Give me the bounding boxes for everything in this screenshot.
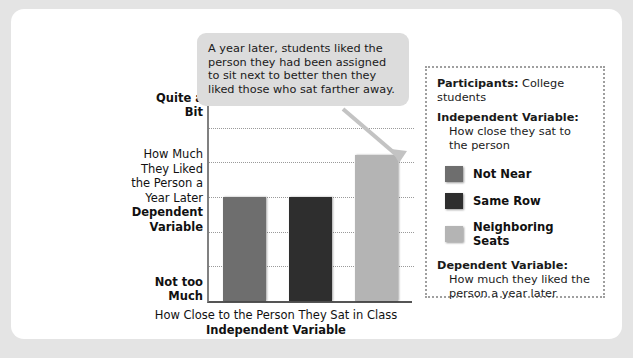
y-axis-title-line1: How Much (143, 147, 203, 161)
legend-label-same-row: Same Row (473, 194, 541, 208)
legend-item-neighboring-seats[interactable]: Neighboring Seats (445, 220, 593, 248)
x-axis-title: How Close to the Person They Sat in Clas… (131, 308, 421, 338)
dependent-variable-row: Dependent Variable: How much they liked … (437, 259, 593, 301)
dependent-variable-label: Dependent Variable: (437, 259, 593, 273)
legend-item-not-near[interactable]: Not Near (445, 166, 593, 182)
dependent-variable-value: How much they liked the person a year la… (449, 273, 593, 301)
y-axis-title-line2: They Liked (141, 162, 203, 176)
legend-swatch-same-row (445, 193, 463, 209)
info-panel: Participants: College students Independe… (425, 66, 605, 298)
legend-swatch-not-near (445, 166, 463, 182)
independent-variable-label: Independent Variable: (437, 111, 593, 125)
y-axis-title: How Much They Liked the Person a Year La… (87, 147, 203, 234)
y-axis-top-tick-label: Quite a Bit (93, 91, 203, 119)
figure-card: Quite a Bit How Much They Liked the Pers… (11, 9, 622, 339)
legend-item-same-row[interactable]: Same Row (445, 193, 593, 209)
bar-neighboring-seats (355, 155, 398, 301)
x-axis-title-line1: How Close to the Person They Sat in Clas… (155, 308, 398, 322)
y-axis-title-line3: the Person a (131, 176, 203, 190)
y-axis-bottom-tick-line2: Much (168, 289, 203, 303)
x-axis-title-independent-variable: Independent Variable (131, 323, 421, 338)
legend-label-not-near: Not Near (473, 167, 531, 181)
page-background: Quite a Bit How Much They Liked the Pers… (0, 0, 633, 358)
gridline (209, 128, 414, 129)
bar-same-row (289, 197, 332, 301)
callout-bubble: A year later, students liked the person … (197, 33, 409, 106)
independent-variable-value: How close they sat to the person (449, 125, 593, 153)
y-axis-bottom-tick-label: Not too Much (93, 275, 203, 303)
plot-area (207, 93, 412, 303)
independent-variable-row: Independent Variable: How close they sat… (437, 111, 593, 153)
participants-row: Participants: College students (437, 77, 593, 105)
callout-text: A year later, students liked the person … (208, 42, 395, 96)
y-axis-title-dependent-variable: Dependent Variable (87, 205, 203, 234)
y-axis-bottom-tick-line1: Not too (155, 275, 203, 289)
legend-label-neighboring-seats: Neighboring Seats (473, 220, 593, 248)
participants-label: Participants: (437, 77, 518, 90)
y-axis-title-line4: Year Later (145, 191, 203, 205)
legend-swatch-neighboring-seats (445, 226, 463, 242)
y-axis-top-tick-line2: Bit (185, 105, 203, 119)
y-axis-top-tick-line1: Quite a (156, 91, 203, 105)
bar-not-near (223, 197, 266, 301)
